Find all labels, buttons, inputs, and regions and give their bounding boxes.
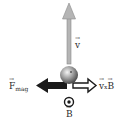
- velocity-arrow: [63, 3, 76, 64]
- force-label: Fmag: [9, 82, 28, 92]
- cross-product-arrow: [73, 79, 96, 92]
- field-label: B: [66, 110, 73, 119]
- cross-product-label: vxB: [99, 82, 114, 91]
- charged-particle: [60, 66, 78, 84]
- diagram-canvas: [0, 0, 125, 126]
- velocity-label: v: [75, 41, 80, 50]
